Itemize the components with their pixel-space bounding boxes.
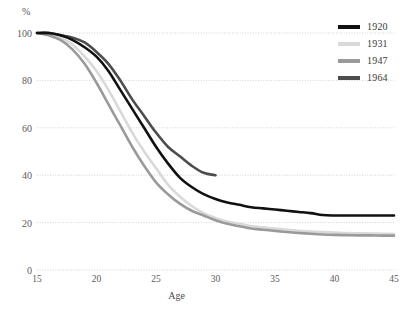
legend-swatch-icon xyxy=(338,25,360,29)
legend-item-label: 1964 xyxy=(367,72,388,83)
legend-item-1964[interactable]: 1964 xyxy=(338,69,400,86)
series-line-1964 xyxy=(37,33,216,175)
legend-item-label: 1947 xyxy=(367,55,388,66)
legend-item-label: 1931 xyxy=(367,38,388,49)
legend-swatch-icon xyxy=(338,59,360,63)
x-axis-title-text: Age xyxy=(168,290,185,301)
x-axis-title: Age xyxy=(0,290,403,301)
x-axis-tick-label: 45 xyxy=(389,274,399,284)
legend-swatch-icon xyxy=(338,42,360,46)
legend-item-1920[interactable]: 1920 xyxy=(338,18,400,35)
legend-item-1947[interactable]: 1947 xyxy=(338,52,400,69)
legend: 1920193119471964 xyxy=(338,18,400,86)
legend-swatch-icon xyxy=(338,76,360,80)
x-axis-tick-label: 20 xyxy=(92,274,102,284)
line-chart: % 020406080100 Age 1920193119471964 1520… xyxy=(0,0,403,316)
legend-item-1931[interactable]: 1931 xyxy=(338,35,400,52)
x-axis-tick-label: 30 xyxy=(211,274,221,284)
legend-item-label: 1920 xyxy=(367,21,388,32)
x-axis-tick-label: 25 xyxy=(151,274,161,284)
x-axis-tick-label: 15 xyxy=(32,274,42,284)
x-axis-tick-label: 35 xyxy=(270,274,280,284)
x-axis-tick-label: 40 xyxy=(330,274,340,284)
